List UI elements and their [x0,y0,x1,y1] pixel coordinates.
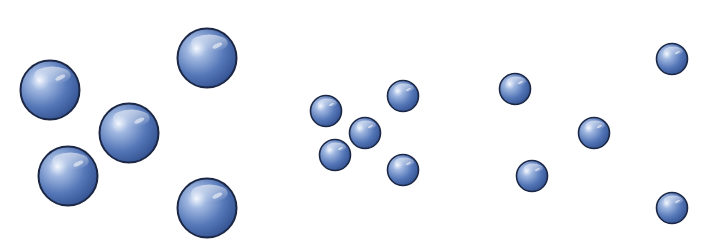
sphere-particle [178,29,237,88]
sphere-gloss [664,47,683,56]
sphere-gloss [113,109,150,127]
sphere-gloss [327,143,346,152]
sphere-particle [21,61,80,120]
sphere-particle [320,140,351,171]
particle-diagram [0,0,722,248]
sphere-particle [657,44,688,75]
sphere-particle [178,179,237,238]
sphere-gloss [586,121,605,130]
sphere-particle [350,118,381,149]
sphere-particle [500,74,531,105]
sphere-gloss [395,84,414,93]
sphere-gloss [191,184,228,202]
sphere-gloss [52,152,89,170]
sphere-gloss [664,196,683,205]
sphere-particle [39,147,98,206]
sphere-gloss [318,99,337,108]
sphere-gloss [191,34,228,52]
sphere-particle [100,104,159,163]
sphere-gloss [507,77,526,86]
sphere-gloss [357,121,376,130]
sphere-particle [579,118,610,149]
sphere-gloss [395,158,414,167]
sphere-particle [657,193,688,224]
sphere-particle [311,96,342,127]
sphere-gloss [524,164,543,173]
sphere-particle [517,161,548,192]
sphere-particle [388,81,419,112]
sphere-gloss [34,66,71,84]
sphere-particle [388,155,419,186]
